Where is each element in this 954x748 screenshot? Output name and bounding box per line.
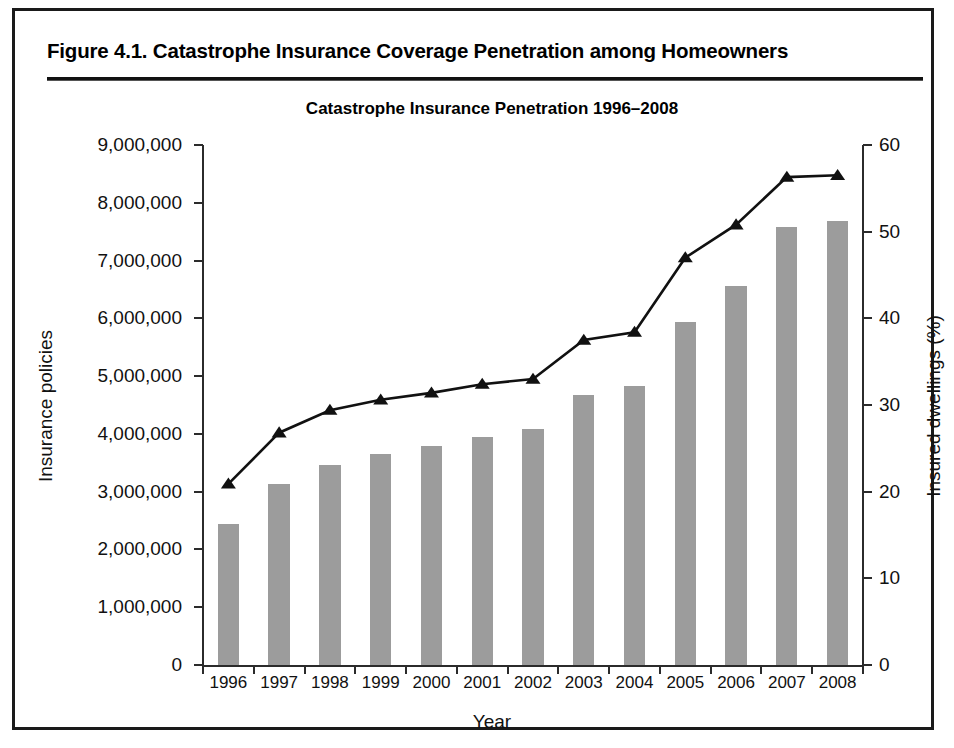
y-tick-right <box>863 491 872 493</box>
y-tick-left <box>194 317 203 319</box>
plot-area: 9,000,0008,000,0007,000,0006,000,0005,00… <box>203 145 863 666</box>
y-tick-left <box>194 375 203 377</box>
y-tick-label-right: 20 <box>879 481 954 503</box>
y-tick-left <box>194 433 203 435</box>
caption-divider <box>47 77 923 81</box>
line-series <box>203 145 863 667</box>
y-tick-label-left: 9,000,000 <box>32 134 182 156</box>
x-tick-label: 2001 <box>463 673 501 693</box>
figure-caption: Figure 4.1. Catastrophe Insurance Covera… <box>47 39 927 63</box>
y-tick-label-right: 40 <box>879 307 954 329</box>
line-path <box>228 175 837 484</box>
x-tick-label: 2003 <box>565 673 603 693</box>
y-tick-right <box>863 664 872 666</box>
y-tick-left <box>194 491 203 493</box>
y-tick-label-left: 4,000,000 <box>32 423 182 445</box>
y-tick-right <box>863 404 872 406</box>
x-tick-label: 2000 <box>413 673 451 693</box>
y-tick-label-right: 0 <box>879 654 954 676</box>
x-tick-label: 2002 <box>514 673 552 693</box>
x-tick-label: 2005 <box>666 673 704 693</box>
y-tick-label-left: 3,000,000 <box>32 481 182 503</box>
y-tick-left <box>194 548 203 550</box>
x-tick-label: 2004 <box>616 673 654 693</box>
y-tick-left <box>194 260 203 262</box>
y-tick-label-right: 60 <box>879 134 954 156</box>
y-tick-left <box>194 144 203 146</box>
y-axis-title-left-text: Insurance policies <box>35 329 57 481</box>
x-tick-label: 1997 <box>260 673 298 693</box>
y-tick-right <box>863 317 872 319</box>
x-tick-label: 2008 <box>819 673 857 693</box>
x-tick-label: 1999 <box>362 673 400 693</box>
line-marker <box>627 326 642 337</box>
y-tick-left <box>194 606 203 608</box>
line-marker <box>272 426 287 437</box>
y-tick-right <box>863 231 872 233</box>
y-tick-label-right: 10 <box>879 567 954 589</box>
x-tick-label: 2007 <box>768 673 806 693</box>
y-tick-label-left: 1,000,000 <box>32 596 182 618</box>
figure-frame: Figure 4.1. Catastrophe Insurance Covera… <box>12 8 934 730</box>
x-tick-label: 1996 <box>209 673 247 693</box>
y-tick-left <box>194 202 203 204</box>
y-tick-right <box>863 144 872 146</box>
x-tick-label: 1998 <box>311 673 349 693</box>
y-tick-label-right: 30 <box>879 394 954 416</box>
y-tick-label-left: 2,000,000 <box>32 538 182 560</box>
line-markers <box>221 169 845 489</box>
chart-title: Catastrophe Insurance Penetration 1996–2… <box>15 99 954 119</box>
x-axis-title: Year <box>15 711 954 733</box>
y-tick-label-left: 5,000,000 <box>32 365 182 387</box>
y-tick-label-left: 7,000,000 <box>32 250 182 272</box>
y-tick-label-left: 0 <box>32 654 182 676</box>
y-tick-right <box>863 577 872 579</box>
x-tick-label: 2006 <box>717 673 755 693</box>
y-axis-title-left: Insurance policies <box>33 145 59 666</box>
y-tick-label-left: 6,000,000 <box>32 307 182 329</box>
y-tick-label-left: 8,000,000 <box>32 192 182 214</box>
y-tick-label-right: 50 <box>879 221 954 243</box>
